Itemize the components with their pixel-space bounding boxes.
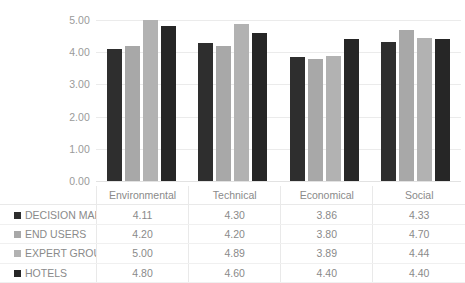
legend-entry: END USERS	[0, 224, 97, 243]
table-value-cell: 4.40	[281, 263, 373, 282]
y-tick-label: 1.00	[69, 143, 90, 155]
bar	[161, 26, 176, 181]
bar	[381, 42, 396, 181]
table-value-cell: 4.44	[373, 244, 465, 263]
legend-swatch-icon	[14, 212, 21, 219]
bar	[216, 46, 231, 181]
legend-swatch-icon	[14, 231, 21, 238]
table-value-cell: 3.80	[281, 224, 373, 243]
legend-entry: DECISION MAKERS	[0, 205, 97, 224]
bar-group	[279, 0, 370, 181]
table-header-row: EnvironmentalTechnicalEconomicalSocial	[0, 186, 465, 205]
bar	[344, 39, 359, 181]
bar	[107, 49, 122, 181]
table-value-cell: 4.89	[189, 244, 281, 263]
table-column-header: Social	[373, 186, 465, 205]
legend-swatch-icon	[14, 270, 21, 277]
table-value-cell: 4.60	[189, 263, 281, 282]
series-name-label: DECISION MAKERS	[25, 209, 97, 221]
table-row: DECISION MAKERS4.114.303.864.33	[0, 205, 465, 224]
table-column-header: Environmental	[97, 186, 189, 205]
gridline	[96, 181, 461, 182]
table-corner-cell	[0, 186, 97, 205]
table-column-header: Economical	[281, 186, 373, 205]
table-row: HOTELS4.804.604.404.40	[0, 263, 465, 282]
table-value-cell: 4.40	[373, 263, 465, 282]
bar	[198, 43, 213, 181]
y-axis: 0.001.002.003.004.005.00	[42, 0, 90, 186]
bar	[417, 38, 432, 181]
table-value-cell: 4.20	[189, 224, 281, 243]
data-table-body: EnvironmentalTechnicalEconomicalSocialDE…	[0, 186, 465, 282]
table-value-cell: 4.30	[189, 205, 281, 224]
table-value-cell: 4.20	[97, 224, 189, 243]
bar	[326, 56, 341, 181]
table-value-cell: 4.11	[97, 205, 189, 224]
bar	[125, 46, 140, 181]
bar	[290, 57, 305, 181]
bar	[435, 39, 450, 181]
bars-area	[96, 0, 461, 181]
bar	[234, 24, 249, 181]
bar-group	[96, 0, 187, 181]
table-value-cell: 3.86	[281, 205, 373, 224]
legend-entry: EXPERT GROUP	[0, 244, 97, 263]
series-name-label: HOTELS	[25, 267, 67, 279]
y-tick-label: 4.00	[69, 46, 90, 58]
legend-swatch-icon	[14, 250, 21, 257]
table-row: EXPERT GROUP5.004.893.894.44	[0, 244, 465, 263]
bar-group	[187, 0, 278, 181]
table-row: END USERS4.204.203.804.70	[0, 224, 465, 243]
series-name-label: EXPERT GROUP	[25, 247, 97, 259]
y-tick-label: 2.00	[69, 111, 90, 123]
table-value-cell: 5.00	[97, 244, 189, 263]
plot-area: 0.001.002.003.004.005.00	[0, 0, 465, 186]
bar	[399, 30, 414, 181]
legend-entry: HOTELS	[0, 263, 97, 282]
bar	[143, 20, 158, 181]
table-value-cell: 3.89	[281, 244, 373, 263]
bar-group	[370, 0, 461, 181]
data-table: EnvironmentalTechnicalEconomicalSocialDE…	[0, 186, 465, 283]
y-tick-label: 3.00	[69, 78, 90, 90]
table-value-cell: 4.80	[97, 263, 189, 282]
bar	[252, 33, 267, 181]
table-value-cell: 4.33	[373, 205, 465, 224]
table-value-cell: 4.70	[373, 224, 465, 243]
bar	[308, 59, 323, 181]
y-tick-label: 5.00	[69, 14, 90, 26]
series-name-label: END USERS	[25, 228, 86, 240]
table-column-header: Technical	[189, 186, 281, 205]
